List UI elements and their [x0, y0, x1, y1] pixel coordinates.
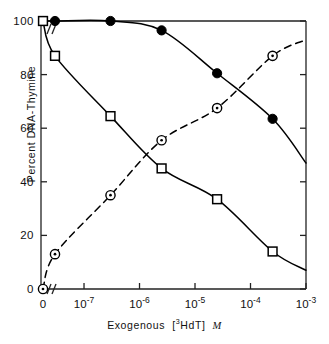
data-point-open-square: [268, 247, 277, 256]
series-line-filled-circle-series: [43, 20, 306, 163]
data-point-open-square: [39, 17, 48, 26]
y-tick-label: 0: [27, 283, 34, 295]
data-point-open-square: [213, 195, 222, 204]
data-point-open-square: [157, 164, 166, 173]
y-tick-label: 40: [20, 176, 34, 188]
data-point-circle-dot: [50, 250, 59, 259]
data-point-open-square: [106, 112, 115, 121]
series-markers: [38, 16, 277, 293]
data-point-circle-dot: [268, 51, 277, 60]
data-point-circle-dot: [38, 284, 47, 293]
x-tick-group: 010-710-610-510-410-3: [40, 283, 317, 310]
data-point-circle-dot: [106, 191, 115, 200]
figure: Percent DNA-Thymine Exogenous [3HdT] M 0…: [0, 0, 329, 344]
series-curves: [43, 20, 306, 289]
data-point-filled-circle: [106, 16, 115, 25]
y-tick-label: 80: [20, 69, 34, 81]
data-point-circle-dot: [212, 104, 221, 113]
y-tick-label: 100: [13, 15, 34, 27]
series-line-circle-dot-series: [43, 40, 306, 289]
x-tick-label: 10-6: [129, 295, 150, 310]
data-point-circle-dot: [157, 136, 166, 145]
x-tick-label: 0: [40, 298, 46, 310]
x-tick-label: 10-7: [74, 295, 95, 310]
y-tick-label: 60: [20, 122, 34, 134]
data-point-open-square: [51, 51, 60, 60]
plot-canvas: 020406080100 010-710-610-510-410-3: [0, 0, 329, 344]
series-line-open-square-series: [43, 21, 306, 270]
x-tick-label: 10-4: [240, 295, 261, 310]
data-point-filled-circle: [268, 114, 277, 123]
data-point-filled-circle: [50, 16, 59, 25]
x-tick-label: 10-5: [185, 295, 206, 310]
x-tick-label: 10-3: [296, 295, 317, 310]
data-point-filled-circle: [212, 69, 221, 78]
data-point-filled-circle: [157, 26, 166, 35]
y-tick-label: 20: [20, 229, 34, 241]
